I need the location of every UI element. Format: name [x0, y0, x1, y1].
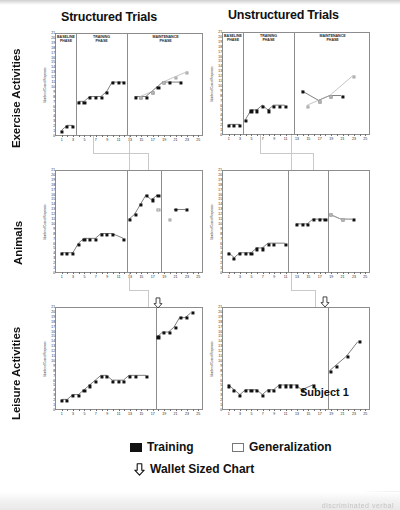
- data-point-training: [261, 248, 264, 251]
- wallet-chart-marker-1: [153, 295, 163, 307]
- y-tick-label: 9: [220, 228, 222, 231]
- scan-artifact-text: discriminated verbal: [322, 502, 394, 509]
- y-tick-label: 21: [218, 169, 222, 172]
- y-tick-label: 20: [218, 311, 222, 314]
- legend-generalization-label: Generalization: [249, 440, 332, 454]
- x-tick-label: 21: [341, 275, 345, 279]
- x-tick-mark: [130, 409, 131, 411]
- x-tick-label: 19: [329, 137, 333, 141]
- x-tick-mark: [297, 134, 298, 136]
- down-arrow-icon: [320, 296, 330, 308]
- x-tick-mark: [113, 409, 114, 411]
- data-point-training: [180, 316, 183, 319]
- x-tick-mark: [269, 409, 270, 411]
- data-point-training: [267, 243, 270, 246]
- down-arrow-icon: [153, 297, 163, 309]
- x-tick-mark: [269, 272, 270, 274]
- x-tick-mark: [158, 409, 159, 411]
- y-tick-label: 15: [51, 62, 55, 65]
- y-tick-label: 6: [53, 243, 55, 246]
- y-tick-label: 7: [53, 375, 55, 378]
- data-point-training: [111, 233, 114, 236]
- data-point-training: [256, 110, 259, 113]
- x-tick-label: 9: [273, 137, 275, 141]
- x-tick-mark: [193, 272, 194, 274]
- data-point-training: [267, 390, 270, 393]
- data-point-training: [72, 126, 75, 129]
- y-tick-label: 10: [218, 223, 222, 226]
- phase-connector-line: [148, 290, 149, 307]
- x-tick-mark: [343, 134, 344, 136]
- y-tick-label: 21: [51, 169, 55, 172]
- x-tick-mark: [257, 409, 258, 411]
- data-point-training: [250, 390, 253, 393]
- x-tick-label: 3: [72, 138, 74, 142]
- data-point-training: [180, 82, 183, 85]
- data-point-training: [233, 125, 236, 128]
- x-tick-mark: [229, 272, 230, 274]
- y-axis-title: Number of Correct Responses: [211, 204, 214, 239]
- y-tick-label: 6: [220, 105, 222, 108]
- data-point-training: [94, 380, 97, 383]
- data-point-training: [83, 101, 86, 104]
- y-tick-label: 14: [218, 66, 222, 69]
- data-point-training: [163, 331, 166, 334]
- phase-connector-line: [148, 153, 149, 170]
- x-tick-mark: [246, 134, 247, 136]
- data-point-generalization: [168, 219, 171, 222]
- legend-item-wallet-chart: Wallet Sized Chart: [134, 462, 254, 476]
- data-point-training: [244, 120, 247, 123]
- y-tick-label: 0: [220, 409, 222, 412]
- y-tick-label: 10: [218, 85, 222, 88]
- series-lines: [223, 171, 369, 272]
- y-tick-label: 1: [53, 130, 55, 133]
- data-point-training: [83, 390, 86, 393]
- x-tick-mark: [62, 272, 63, 274]
- data-point-training: [106, 233, 109, 236]
- x-tick-mark: [136, 135, 137, 137]
- plot-frame: 0123456789101112131415161718192021Number…: [55, 33, 203, 136]
- x-tick-mark: [181, 135, 182, 137]
- x-tick-label: 13: [295, 275, 299, 279]
- x-tick-mark: [229, 134, 230, 136]
- x-axis-ticks: 135791113151719212325: [223, 409, 369, 421]
- x-tick-mark: [113, 135, 114, 137]
- x-tick-label: 5: [83, 412, 85, 416]
- data-point-training: [66, 400, 69, 403]
- x-tick-mark: [79, 272, 80, 274]
- x-tick-mark: [73, 272, 74, 274]
- x-tick-label: 1: [61, 412, 63, 416]
- y-tick-label: 18: [218, 321, 222, 324]
- y-tick-label: 15: [218, 61, 222, 64]
- y-tick-label: 9: [53, 365, 55, 368]
- data-point-training: [256, 390, 259, 393]
- x-tick-label: 25: [363, 412, 367, 416]
- data-point-training: [261, 395, 264, 398]
- data-point-training: [284, 243, 287, 246]
- data-point-training: [358, 341, 361, 344]
- y-tick-label: 12: [218, 213, 222, 216]
- x-tick-label: 7: [262, 275, 264, 279]
- y-tick-label: 14: [51, 204, 55, 207]
- x-tick-mark: [119, 135, 120, 137]
- data-point-training: [60, 253, 63, 256]
- data-point-training: [174, 209, 177, 212]
- y-tick-label: 2: [53, 126, 55, 129]
- x-tick-mark: [153, 409, 154, 411]
- subject-label: Subject 1: [300, 386, 349, 398]
- y-tick-label: 11: [52, 218, 55, 221]
- y-tick-label: 1: [53, 267, 55, 270]
- x-tick-mark: [187, 135, 188, 137]
- x-tick-mark: [181, 409, 182, 411]
- x-tick-mark: [246, 409, 247, 411]
- plot-frame: 0123456789101112131415161718192021Number…: [222, 32, 370, 135]
- x-tick-mark: [84, 272, 85, 274]
- x-tick-mark: [257, 134, 258, 136]
- x-tick-label: 13: [295, 412, 299, 416]
- x-tick-mark: [141, 272, 142, 274]
- x-tick-label: 17: [318, 137, 322, 141]
- data-point-training: [239, 253, 242, 256]
- y-tick-label: 6: [53, 380, 55, 383]
- y-tick-label: 4: [220, 390, 222, 393]
- y-tick-label: 0: [220, 134, 222, 137]
